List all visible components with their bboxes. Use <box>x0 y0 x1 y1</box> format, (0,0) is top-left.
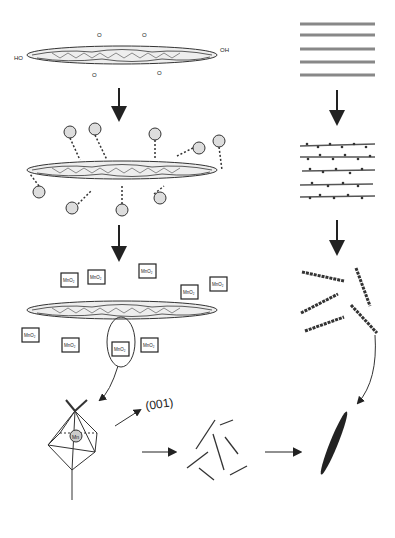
svg-text:O: O <box>142 32 147 38</box>
svg-text:MnO₂: MnO₂ <box>63 278 75 283</box>
svg-text:MnO₂: MnO₂ <box>212 282 224 287</box>
svg-text:MnO₂: MnO₂ <box>90 275 102 280</box>
facet-label: (001) <box>144 395 174 413</box>
ellipsoid-product <box>318 410 351 476</box>
svg-text:O: O <box>97 32 102 38</box>
svg-text:MnO₂: MnO₂ <box>24 333 36 338</box>
svg-text:MnO₂: MnO₂ <box>143 343 155 348</box>
svg-text:HO: HO <box>14 55 23 61</box>
svg-text:O: O <box>157 70 162 76</box>
stacked-graphene-layers <box>300 24 375 75</box>
svg-text:MnO₂: MnO₂ <box>183 290 195 295</box>
mno2-nucleated-sheet: MnO₂MnO₂MnO₂ MnO₂MnO₂MnO₂ MnO₂MnO₂MnO₂ <box>22 264 227 367</box>
zoom-curve <box>100 366 118 400</box>
svg-text:O: O <box>92 72 97 78</box>
svg-text:MnO₂: MnO₂ <box>114 347 126 352</box>
svg-text:MnO₂: MnO₂ <box>64 343 76 348</box>
exfoliated-sheets <box>301 268 377 333</box>
synthesis-diagram: HO OH O O O O <box>0 0 395 538</box>
svg-text:OH: OH <box>220 47 229 53</box>
assembly-curve <box>358 335 375 403</box>
nanorods <box>187 420 247 480</box>
mn-center-label: Mn <box>72 434 79 440</box>
mn2-adsorbed-sheet <box>27 123 225 216</box>
svg-text:MnO₂: MnO₂ <box>141 269 153 274</box>
decorated-layers <box>300 143 375 200</box>
mn-octahedron <box>48 400 140 500</box>
graphene-oxide-sheet: HO OH O O O O <box>14 32 229 78</box>
